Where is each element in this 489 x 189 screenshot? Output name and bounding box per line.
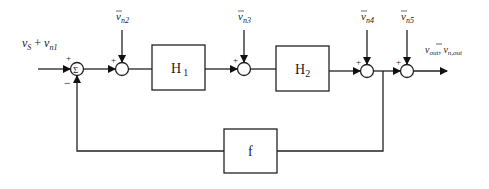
adder-4 [361,65,374,78]
input-label: vS + vn1 [22,36,57,52]
noise-n4-label: vn4 [361,10,374,25]
adder-2 [116,63,129,76]
block-diagram: vS + vn1 Σ + − + + + + vn2 vn3 vn4 vn5 H… [0,0,489,189]
block-h2-label: H2 [295,62,310,79]
block-h1-label: H1 [171,61,188,78]
sigma-plus-sign: + [66,53,71,63]
adder-3 [238,63,251,76]
block-f-label: f [248,144,253,159]
noise-n3-label: vn3 [238,10,251,25]
adder-5-plus: + [396,57,401,67]
noise-n2-label: vn2 [116,10,129,25]
output-label: vout, vn,out [425,44,463,57]
noise-n5-label: vn5 [401,10,414,25]
sigma-minus-sign: − [64,76,71,90]
adder-2-plus: + [111,55,116,65]
adder-3-plus: + [233,55,238,65]
sigma-symbol: Σ [73,65,78,75]
feedback-wire-left [77,76,224,151]
adder-4-plus: + [356,57,361,67]
feedback-wire-right [277,71,383,151]
adder-5 [401,65,414,78]
